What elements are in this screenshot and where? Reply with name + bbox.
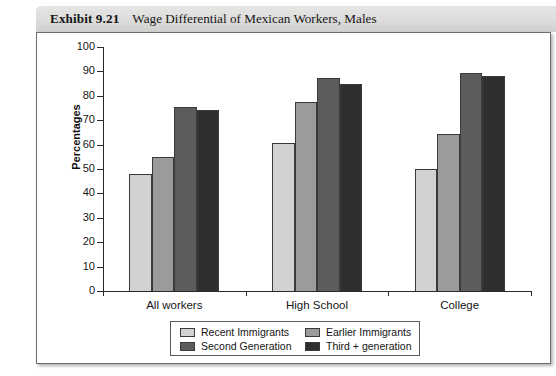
x-axis-tick (246, 291, 247, 296)
chart-frame: Percentages 0102030405060708090100 All w… (36, 32, 551, 364)
x-axis-tick-label: College (388, 299, 531, 311)
y-axis-tick-label: 30 (43, 211, 95, 223)
x-axis-tick (103, 291, 104, 296)
exhibit-figure: Exhibit 9.21Wage Differential of Mexican… (0, 0, 556, 376)
legend-item-recent-immigrants: Recent Immigrants (180, 325, 289, 339)
y-axis-tick-label: 100 (43, 40, 95, 52)
legend-label: Recent Immigrants (201, 325, 289, 339)
bar (129, 174, 152, 291)
bar (317, 78, 340, 292)
x-axis-tick-label: All workers (103, 299, 246, 311)
x-axis-line (103, 291, 532, 292)
bar (295, 102, 318, 291)
x-axis-tick-label: High School (246, 299, 389, 311)
legend-item-earlier-immigrants: Earlier Immigrants (305, 325, 411, 339)
exhibit-title: Wage Differential of Mexican Workers, Ma… (132, 11, 376, 26)
y-axis-labels: 0102030405060708090100 (37, 33, 95, 293)
bar-group (129, 47, 219, 291)
y-axis-tick-label: 10 (43, 260, 95, 272)
plot-area (103, 47, 531, 291)
chart-legend: Recent Immigrants Earlier Immigrants Sec… (170, 321, 420, 356)
bar (152, 157, 175, 291)
bar (174, 107, 197, 291)
legend-row: Recent Immigrants Earlier Immigrants (177, 325, 414, 339)
bar (197, 110, 220, 291)
legend-label: Third + generation (326, 339, 412, 353)
y-axis-tick-label: 90 (43, 64, 95, 76)
legend-item-second-generation: Second Generation (180, 339, 291, 353)
legend-swatch-icon (305, 328, 320, 337)
legend-swatch-icon (305, 342, 320, 351)
bar (415, 169, 438, 291)
legend-row: Second Generation Third + generation (177, 339, 414, 353)
bar (460, 73, 483, 291)
bar-group (272, 47, 362, 291)
bar (482, 76, 505, 291)
bar (272, 143, 295, 291)
y-axis-tick-label: 70 (43, 113, 95, 125)
legend-label: Earlier Immigrants (326, 325, 411, 339)
exhibit-caption: Exhibit 9.21Wage Differential of Mexican… (50, 9, 377, 29)
x-axis-tick (531, 291, 532, 296)
legend-swatch-icon (180, 328, 195, 337)
bar (340, 84, 363, 291)
y-axis-tick-label: 60 (43, 138, 95, 150)
y-axis-tick-label: 50 (43, 162, 95, 174)
bar (437, 134, 460, 291)
x-axis-tick (388, 291, 389, 296)
y-axis-tick-label: 40 (43, 186, 95, 198)
y-axis-tick-label: 80 (43, 89, 95, 101)
legend-swatch-icon (180, 342, 195, 351)
exhibit-number: Exhibit 9.21 (50, 11, 119, 26)
bar-group (415, 47, 505, 291)
legend-label: Second Generation (201, 339, 291, 353)
legend-item-third-plus-generation: Third + generation (305, 339, 412, 353)
y-axis-tick-label: 0 (43, 284, 95, 296)
y-axis-tick-label: 20 (43, 235, 95, 247)
